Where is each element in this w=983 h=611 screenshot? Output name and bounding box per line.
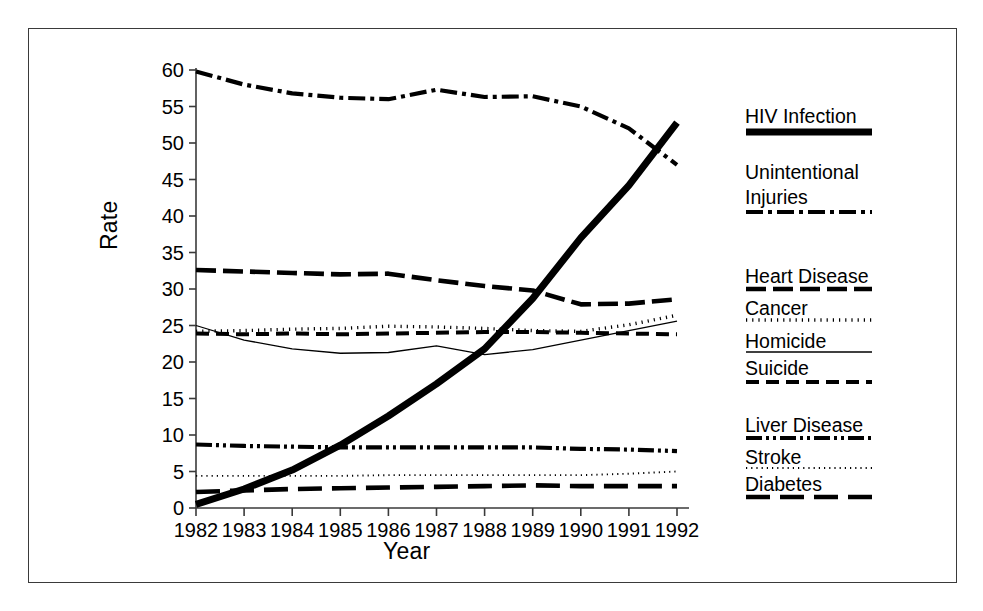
series-line-heart-disease bbox=[196, 270, 677, 304]
x-tick-label: 1992 bbox=[655, 519, 700, 541]
y-axis: 051015202530354045505560 bbox=[162, 59, 196, 519]
x-tick-label: 1990 bbox=[559, 519, 604, 541]
y-tick-label: 30 bbox=[162, 278, 184, 300]
y-axis-title: Rate bbox=[96, 201, 123, 250]
x-tick-label: 1983 bbox=[222, 519, 267, 541]
series-line-cancer bbox=[196, 315, 677, 331]
y-tick-label: 35 bbox=[162, 242, 184, 264]
chart-page: 051015202530354045505560 198219831984198… bbox=[0, 0, 983, 611]
legend-label-diabetes: Diabetes bbox=[745, 473, 822, 496]
series-line-unintentional-injuries bbox=[196, 71, 677, 164]
x-tick-label: 1985 bbox=[318, 519, 363, 541]
y-tick-label: 15 bbox=[162, 388, 184, 410]
series-line-stroke bbox=[196, 472, 677, 476]
x-tick-label: 1988 bbox=[462, 519, 507, 541]
x-axis: 1982198319841985198619871988198919901991… bbox=[174, 508, 700, 541]
legend-label-injuries: Injuries bbox=[745, 186, 808, 209]
legend-label-liver-disease: Liver Disease bbox=[745, 414, 863, 437]
y-tick-label: 55 bbox=[162, 96, 184, 118]
legend-label-unintentional: Unintentional bbox=[745, 161, 859, 184]
legend-label-stroke: Stroke bbox=[745, 446, 801, 469]
legend-label-suicide: Suicide bbox=[745, 357, 809, 380]
x-axis-title: Year bbox=[383, 538, 430, 565]
legend-label-homicide: Homicide bbox=[745, 330, 826, 353]
x-tick-label: 1991 bbox=[607, 519, 652, 541]
y-tick-label: 0 bbox=[173, 497, 184, 519]
data-series-group bbox=[196, 71, 677, 504]
series-line-diabetes bbox=[196, 485, 677, 492]
y-tick-label: 25 bbox=[162, 315, 184, 337]
y-tick-label: 60 bbox=[162, 59, 184, 81]
y-tick-label: 45 bbox=[162, 169, 184, 191]
x-tick-label: 1984 bbox=[270, 519, 315, 541]
chart-plot-area: 051015202530354045505560 198219831984198… bbox=[0, 0, 983, 611]
y-tick-label: 5 bbox=[173, 461, 184, 483]
x-tick-label: 1989 bbox=[510, 519, 555, 541]
y-tick-label: 40 bbox=[162, 205, 184, 227]
series-line-liver-disease bbox=[196, 444, 677, 451]
legend-label-hiv-infection: HIV Infection bbox=[745, 105, 857, 128]
y-tick-label: 20 bbox=[162, 351, 184, 373]
y-tick-label: 50 bbox=[162, 132, 184, 154]
series-line-suicide bbox=[196, 332, 677, 334]
x-tick-label: 1982 bbox=[174, 519, 219, 541]
legend-label-heart-disease: Heart Disease bbox=[745, 265, 869, 288]
legend-label-cancer: Cancer bbox=[745, 297, 808, 320]
y-tick-label: 10 bbox=[162, 424, 184, 446]
series-line-homicide bbox=[196, 321, 677, 355]
